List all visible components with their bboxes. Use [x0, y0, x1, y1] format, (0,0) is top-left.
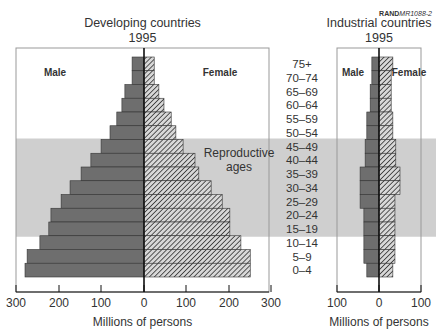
male-bar: [122, 98, 144, 112]
male-bar: [132, 71, 144, 85]
age-group-label: 40–44: [286, 154, 319, 166]
male-bar: [372, 57, 379, 71]
female-bar: [379, 153, 396, 167]
male-bar: [360, 195, 379, 209]
female-bar: [379, 126, 393, 140]
female-bar: [379, 112, 393, 126]
male-bar: [372, 71, 379, 85]
x-tick-label: 300: [261, 296, 281, 310]
female-bar: [144, 140, 183, 154]
male-bar: [81, 167, 144, 181]
male-bar: [125, 85, 144, 99]
female-bar: [144, 126, 176, 140]
female-bar: [144, 57, 154, 71]
legend-male: Male: [342, 67, 365, 78]
age-group-label: 25–29: [286, 196, 318, 208]
age-group-label: 20–24: [286, 209, 319, 221]
male-bar: [360, 181, 379, 195]
male-bar: [70, 181, 144, 195]
male-bar: [51, 208, 144, 222]
age-group-label: 60–64: [286, 99, 319, 111]
female-bar: [144, 181, 211, 195]
x-tick-label: 100: [91, 296, 111, 310]
chart-title: Industrial countries: [327, 16, 432, 30]
chart-subtitle: 1995: [365, 31, 393, 45]
female-bar: [144, 98, 164, 112]
female-bar: [379, 85, 391, 99]
source-label: RANDMR1088-2: [379, 10, 432, 17]
female-bar: [144, 222, 230, 236]
age-group-label: 30–34: [286, 182, 319, 194]
x-tick-label: 200: [219, 296, 239, 310]
x-tick-label: 0: [141, 296, 148, 310]
x-tick-label: 100: [327, 296, 347, 310]
x-axis-label: Millions of persons: [329, 315, 428, 329]
female-bar: [379, 222, 395, 236]
male-bar: [40, 236, 144, 250]
band-label: ages: [226, 160, 252, 174]
female-bar: [144, 195, 222, 209]
female-bar: [379, 167, 400, 181]
male-bar: [101, 140, 144, 154]
female-bar: [144, 112, 171, 126]
female-bar: [144, 250, 250, 264]
male-bar: [367, 112, 379, 126]
male-bar: [132, 57, 144, 71]
female-bar: [144, 236, 241, 250]
female-bar: [379, 181, 400, 195]
female-bar: [379, 195, 395, 209]
male-bar: [91, 153, 144, 167]
female-bar: [379, 71, 391, 85]
male-bar: [364, 222, 379, 236]
male-bar: [117, 112, 144, 126]
male-bar: [364, 208, 379, 222]
x-tick-label: 100: [176, 296, 196, 310]
male-bar: [61, 195, 144, 209]
male-bar: [370, 98, 379, 112]
band-label: Reproductive: [204, 146, 275, 160]
female-bar: [379, 208, 395, 222]
x-tick-label: 0: [376, 296, 383, 310]
x-tick-label: 200: [49, 296, 69, 310]
age-group-label: 10–14: [286, 237, 319, 249]
age-group-label: 70–74: [286, 72, 319, 84]
age-group-label: 35–39: [286, 168, 318, 180]
male-bar: [360, 167, 379, 181]
female-bar: [144, 71, 154, 85]
male-bar: [367, 263, 379, 277]
chart-title: Developing countries: [84, 16, 201, 30]
legend-female: Female: [203, 67, 238, 78]
male-bar: [25, 263, 144, 277]
female-bar: [379, 236, 395, 250]
male-bar: [27, 250, 144, 264]
age-group-label: 55–59: [286, 113, 318, 125]
female-bar: [144, 167, 199, 181]
male-bar: [110, 126, 144, 140]
age-group-label: 75+: [292, 58, 312, 70]
male-bar: [364, 250, 379, 264]
female-bar: [379, 140, 396, 154]
female-bar: [379, 57, 393, 71]
female-bar: [379, 263, 393, 277]
male-bar: [370, 85, 379, 99]
male-bar: [367, 126, 379, 140]
x-tick-label: 100: [411, 296, 431, 310]
male-bar: [49, 222, 144, 236]
population-pyramids: 3002001000100200300Millions of personsDe…: [0, 0, 436, 335]
male-bar: [364, 236, 379, 250]
x-axis-label: Millions of persons: [93, 315, 192, 329]
female-bar: [144, 85, 159, 99]
age-group-label: 0–4: [292, 264, 312, 276]
female-bar: [144, 153, 195, 167]
female-bar: [144, 263, 250, 277]
x-tick-label: 300: [6, 296, 26, 310]
age-group-label: 5–9: [292, 251, 311, 263]
male-bar: [365, 140, 379, 154]
age-group-label: 65–69: [286, 86, 318, 98]
age-group-label: 15–19: [286, 223, 318, 235]
female-bar: [379, 98, 391, 112]
female-bar: [379, 250, 395, 264]
age-group-label: 45–49: [286, 141, 318, 153]
female-bar: [144, 208, 230, 222]
legend-male: Male: [44, 67, 67, 78]
